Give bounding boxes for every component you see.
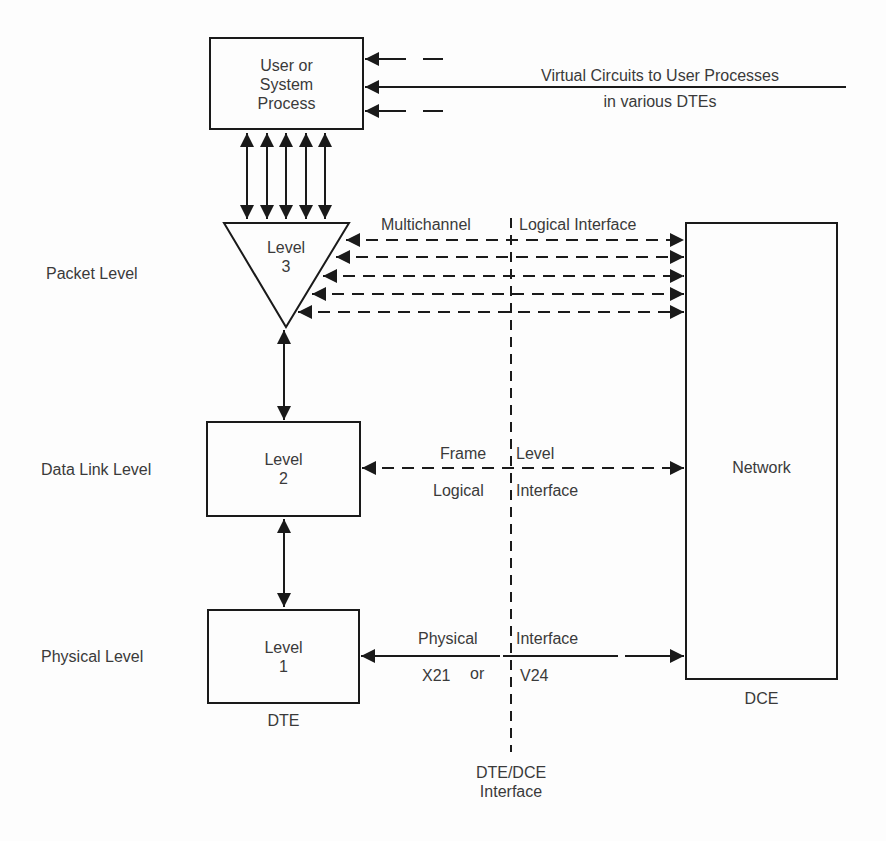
network-box	[686, 223, 837, 679]
frame-level-label: Level	[516, 444, 554, 463]
multichannel-label: Multichannel	[381, 215, 471, 234]
level3-label: Level 3	[246, 238, 326, 276]
frame-logical-label: Logical	[433, 481, 484, 500]
x25-levels-diagram: User or System Process Virtual Circuits …	[0, 0, 886, 841]
virtual-circuits-sublabel: in various DTEs	[480, 92, 840, 111]
level2-label: Level 2	[207, 450, 360, 488]
process-level3-arrows	[247, 133, 325, 219]
multichannel-arrows	[298, 240, 684, 312]
or-label: or	[470, 664, 484, 683]
diagram-graphics	[0, 0, 886, 841]
user-process-label: User or System Process	[210, 56, 363, 113]
logical-interface-label: Logical Interface	[519, 215, 636, 234]
level1-label: Level 1	[208, 638, 359, 676]
packet-level-label: Packet Level	[46, 264, 138, 283]
physical-level-label: Physical Level	[41, 647, 143, 666]
dte-dce-interface-label: DTE/DCE Interface	[451, 763, 571, 801]
network-label: Network	[686, 458, 837, 477]
physical-label: Physical	[418, 629, 478, 648]
physical-interface-label: Interface	[516, 629, 578, 648]
data-link-level-label: Data Link Level	[41, 460, 151, 479]
frame-interface-label: Interface	[516, 481, 578, 500]
virtual-circuits-label: Virtual Circuits to User Processes	[480, 66, 840, 85]
dce-label: DCE	[686, 689, 837, 708]
dte-label: DTE	[208, 711, 359, 730]
x21-label: X21	[422, 666, 450, 685]
v24-label: V24	[520, 666, 548, 685]
frame-label: Frame	[440, 444, 486, 463]
